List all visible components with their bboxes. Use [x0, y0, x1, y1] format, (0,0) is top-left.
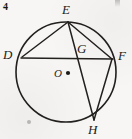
chord-group	[21, 22, 113, 120]
circle-diagram-svg	[0, 0, 132, 139]
point-label-F: F	[118, 49, 126, 62]
point-label-E: E	[62, 3, 70, 16]
segment-EH	[68, 22, 94, 120]
center-dot	[66, 71, 70, 75]
segment-DF	[21, 58, 113, 59]
center-label-O: O	[54, 68, 62, 79]
point-label-G: G	[77, 42, 86, 55]
point-label-H: H	[88, 123, 97, 136]
geometry-figure: 4 E D F G H O	[0, 0, 132, 139]
circle-outline	[16, 22, 116, 122]
point-label-D: D	[3, 48, 12, 61]
